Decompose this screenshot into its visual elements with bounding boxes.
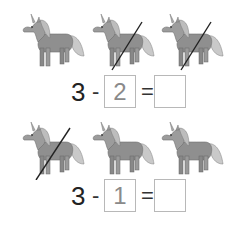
unicorn-icon — [18, 12, 88, 72]
answer-box[interactable] — [154, 75, 186, 108]
equation-2: 3 - 1 = — [0, 178, 243, 214]
equals-sign: = — [141, 178, 154, 214]
subtrahend-box[interactable]: 1 — [104, 179, 136, 212]
unicorn-row-1 — [0, 12, 243, 72]
equals-sign: = — [141, 74, 154, 110]
answer-box[interactable] — [154, 179, 186, 212]
subtrahend-box[interactable]: 2 — [104, 75, 136, 108]
unicorn-icon-crossed — [157, 12, 227, 72]
unicorn-icon-crossed — [18, 120, 88, 180]
minuend: 3 — [71, 178, 85, 214]
unicorn-icon-crossed — [88, 12, 158, 72]
minus-sign: - — [92, 74, 99, 110]
minus-sign: - — [92, 178, 99, 214]
unicorn-icon — [157, 120, 227, 180]
unicorn-icon — [88, 120, 158, 180]
equation-1: 3 - 2 = — [0, 74, 243, 110]
unicorn-row-2 — [0, 120, 243, 180]
minuend: 3 — [71, 74, 85, 110]
